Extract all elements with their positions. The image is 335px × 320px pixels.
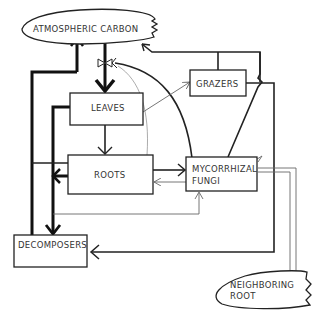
mycorrhizal-label-line1: MYCORRHIZAL [192, 164, 257, 174]
valve-icon [98, 58, 117, 68]
decomposers-label: DECOMPOSERS [18, 240, 87, 250]
edge-roots-to-decomposers [32, 163, 68, 183]
node-atmospheric-carbon: ATMOSPHERIC CARBON [22, 9, 157, 44]
edge-decomposers-to-atmosphere [32, 38, 83, 237]
edge-leaves-to-roots [98, 125, 112, 154]
neighboring-root-label-line1: NEIGHBORING [230, 280, 294, 290]
node-roots: ROOTS [68, 155, 153, 194]
node-mycorrhizal-fungi: MYCORRHIZAL FUNGI [186, 157, 257, 191]
leaves-label: LEAVES [91, 103, 125, 113]
mycorrhizal-label-line2: FUNGI [192, 176, 220, 186]
roots-label: ROOTS [94, 170, 125, 180]
node-leaves: LEAVES [70, 93, 143, 125]
neighboring-root-label-line2: ROOT [230, 291, 256, 301]
grazers-label: GRAZERS [196, 79, 239, 89]
edge-decomposers-to-mycorrhizal [53, 192, 203, 214]
edge-mycorrhizal-to-atmosphere [228, 52, 262, 157]
node-grazers: GRAZERS [190, 70, 246, 96]
node-decomposers: DECOMPOSERS [14, 235, 87, 267]
node-neighboring-root: NEIGHBORING ROOT [216, 271, 311, 309]
edge-roots-to-mycorrhizal [152, 164, 185, 176]
carbon-flow-diagram: ATMOSPHERIC CARBON LEAVES GRAZERS ROOTS … [0, 0, 335, 320]
edge-mycorrhizal-to-neighboring-root [254, 156, 296, 271]
atmospheric-carbon-label: ATMOSPHERIC CARBON [33, 24, 139, 34]
edge-leaves-to-grazers [143, 82, 190, 112]
